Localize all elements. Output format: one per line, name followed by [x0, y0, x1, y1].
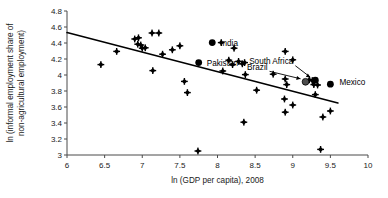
x-tick-label: 6: [65, 161, 70, 170]
y-axis-title: ln (informal employment share ofnon-agri…: [6, 23, 26, 143]
x-tick-label: 9.5: [325, 161, 337, 170]
x-tick-label: 7: [140, 161, 145, 170]
country-marker: [209, 39, 216, 46]
data-point: [169, 46, 176, 53]
axes-layer: [67, 11, 368, 155]
tick-layer: 33.23.43.63.844.24.44.64.866.577.588.599…: [51, 7, 373, 170]
chart-canvas: 33.23.43.63.844.24.44.64.866.577.588.599…: [0, 0, 388, 198]
country-marker: [302, 78, 309, 85]
country-marker: [312, 77, 319, 84]
y-tick-label: 4.8: [51, 7, 63, 16]
data-point: [319, 114, 326, 121]
y-axis-title-line: ln (informal employment share of: [6, 23, 15, 143]
data-point: [289, 102, 296, 109]
country-label: South Africa: [249, 57, 294, 66]
data-point: [317, 146, 324, 153]
highlighted-point-india: India: [209, 39, 239, 48]
highlighted-point-pakistan: Pakistan: [195, 59, 238, 68]
data-point: [281, 96, 288, 103]
highlighted-point-mexico: Mexico: [327, 78, 366, 87]
country-label: India: [220, 39, 238, 48]
data-point: [113, 48, 120, 55]
country-marker: [195, 59, 202, 66]
data-point: [176, 42, 183, 49]
data-point: [282, 76, 289, 83]
y-axis-title-line: non-agricultural employment): [17, 30, 26, 136]
x-tick-label: 10: [364, 161, 373, 170]
data-point: [195, 148, 202, 155]
label-arrow-head: [296, 76, 300, 80]
y-tick-label: 4: [58, 71, 63, 80]
highlighted-points-layer: IndiaPakistanBrazilSouth AfricaMexico: [195, 39, 365, 88]
trend-line: [67, 33, 338, 103]
scatter-chart-figure: 33.23.43.63.844.24.44.64.866.577.588.599…: [0, 0, 388, 198]
country-label: Pakistan: [207, 59, 239, 68]
data-point: [282, 48, 289, 55]
data-point: [283, 81, 290, 88]
x-tick-label: 6.5: [99, 161, 111, 170]
y-tick-label: 4.2: [51, 55, 63, 64]
data-point: [240, 119, 247, 126]
data-point: [97, 61, 104, 68]
x-tick-label: 8.5: [250, 161, 262, 170]
country-marker: [327, 81, 334, 88]
x-tick-label: 8: [215, 161, 220, 170]
y-tick-label: 4.4: [51, 39, 63, 48]
data-point: [282, 109, 289, 116]
data-point: [149, 30, 156, 37]
y-tick-label: 3.6: [51, 103, 63, 112]
y-tick-label: 4.6: [51, 23, 63, 32]
x-tick-label: 7.5: [174, 161, 186, 170]
data-point: [155, 30, 162, 37]
trend-line-layer: [67, 33, 338, 103]
data-point: [181, 78, 188, 85]
data-point: [242, 71, 249, 78]
data-point: [149, 67, 156, 74]
x-tick-label: 9: [291, 161, 296, 170]
data-point: [184, 89, 191, 96]
y-tick-label: 3.4: [51, 119, 63, 128]
y-tick-label: 3: [58, 151, 63, 160]
data-point: [253, 87, 260, 94]
y-tick-label: 3.8: [51, 87, 63, 96]
country-label: Mexico: [339, 78, 365, 87]
x-axis-title: ln (GDP per capita), 2008: [171, 176, 264, 185]
data-point: [327, 108, 334, 115]
y-tick-label: 3.2: [51, 135, 63, 144]
